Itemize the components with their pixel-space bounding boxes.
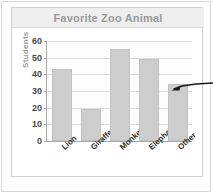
y-axis-tick-label: 10 — [32, 119, 42, 129]
y-axis-tick — [44, 91, 47, 92]
bar-elephant — [139, 59, 159, 141]
y-axis-tick — [44, 108, 47, 109]
y-axis-tick-label: 60 — [32, 36, 42, 46]
chart-title-banner: Favorite Zoo Animal — [12, 8, 204, 28]
gridline — [47, 41, 192, 42]
bar-lion — [52, 69, 72, 141]
plot-area: 0102030405060LionGiraffeMonkeyElephantOt… — [46, 41, 192, 142]
y-axis-tick-label: 40 — [32, 69, 42, 79]
y-axis-tick-label: 30 — [32, 86, 42, 96]
chart-card: Favorite Zoo Animal Students 01020304050… — [11, 7, 203, 177]
y-axis-tick — [44, 74, 47, 75]
bar-monkey — [110, 49, 130, 141]
y-axis-tick — [44, 41, 47, 42]
y-axis-tick — [44, 141, 47, 142]
bar-other — [168, 84, 188, 141]
y-axis-tick-label: 50 — [32, 53, 42, 63]
y-axis-tick — [44, 58, 47, 59]
y-axis-title: Students — [21, 31, 30, 68]
y-axis-tick-label: 0 — [37, 136, 42, 146]
page-title: Favorite Zoo Animal — [53, 12, 162, 24]
y-axis-tick — [44, 124, 47, 125]
y-axis-tick-label: 20 — [32, 103, 42, 113]
chart-screenshot: Favorite Zoo Animal Students 01020304050… — [0, 0, 213, 194]
